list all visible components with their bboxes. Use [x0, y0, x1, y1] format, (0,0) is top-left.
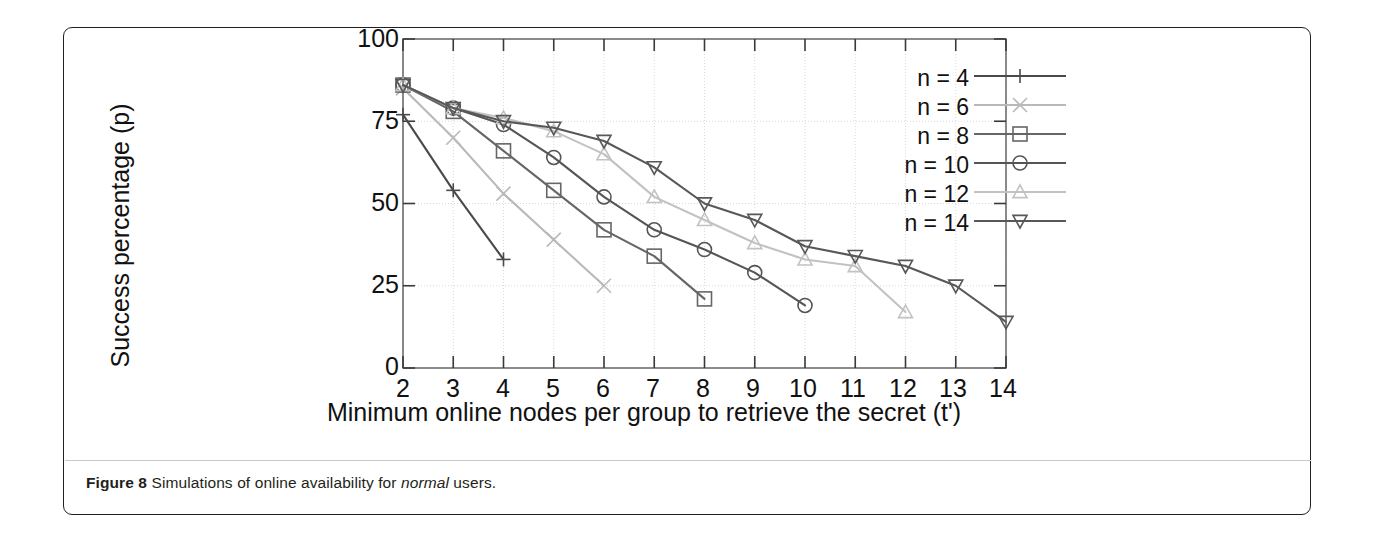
figure-caption-label: Figure 8	[86, 474, 147, 491]
figure-caption-tail: users.	[449, 474, 496, 491]
chart-legend-samples	[974, 69, 1066, 228]
legend-sample-n14	[974, 215, 1066, 228]
legend-label-n10: n = 10	[859, 152, 969, 179]
legend-sample-n10	[974, 156, 1066, 170]
ytick-label-100: 100	[329, 24, 399, 53]
y-axis-title: Success percentage (p)	[106, 71, 135, 401]
x-axis-title: Minimum online nodes per group to retrie…	[244, 398, 1044, 427]
figure-caption: Figure 8 Simulations of online availabil…	[86, 474, 1286, 492]
figure-container: 100 75 50 25 0 2 3 4 5 6 7 8 9 10 11 12 …	[63, 27, 1311, 515]
ytick-label-50: 50	[329, 188, 399, 217]
legend-label-n6: n = 6	[859, 94, 969, 121]
legend-label-n14: n = 14	[859, 210, 969, 237]
chart-plot-region: 100 75 50 25 0 2 3 4 5 6 7 8 9 10 11 12 …	[64, 28, 1312, 460]
legend-sample-n12	[974, 185, 1066, 198]
ytick-label-25: 25	[329, 270, 399, 299]
legend-sample-n8	[974, 127, 1066, 141]
ytick-label-75: 75	[329, 106, 399, 135]
series-n8	[396, 78, 712, 306]
legend-label-n12: n = 12	[859, 181, 969, 208]
legend-sample-n6	[974, 98, 1066, 112]
series-n4	[396, 108, 511, 267]
legend-label-n8: n = 8	[859, 123, 969, 150]
legend-sample-n4	[974, 69, 1066, 83]
figure-caption-emphasis: normal	[401, 474, 449, 491]
figure-caption-text: Simulations of online availability for	[147, 474, 401, 491]
caption-divider	[65, 460, 1311, 461]
legend-label-n4: n = 4	[859, 65, 969, 92]
